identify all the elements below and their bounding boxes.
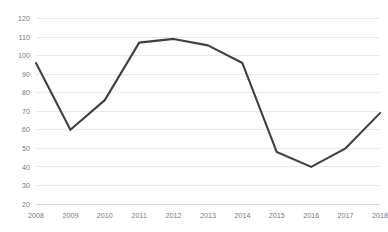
x-axis-tick-label: 2008	[28, 211, 44, 220]
y-axis-tick-label: 40	[22, 163, 30, 172]
y-axis-tick-label: 60	[22, 125, 30, 134]
line-chart: 1201101009080706050403020 20082009201020…	[0, 0, 388, 232]
x-axis-tick-label: 2012	[166, 211, 182, 220]
x-axis-tick-label: 2018	[372, 211, 388, 220]
x-axis-tick-label: 2013	[200, 211, 216, 220]
y-axis-tick-label: 20	[22, 200, 30, 209]
y-axis-tick-label: 120	[18, 14, 30, 23]
y-axis-tick-label: 100	[18, 51, 30, 60]
x-axis-tick-label: 2011	[131, 211, 146, 220]
x-axis-tick-label: 2017	[338, 211, 354, 220]
x-axis-tick-label: 2015	[269, 211, 285, 220]
y-axis-tick-label: 30	[22, 181, 30, 190]
x-axis-tick-label: 2014	[234, 211, 250, 220]
y-axis-tick-label: 70	[22, 107, 30, 116]
y-axis-tick-label: 80	[22, 88, 30, 97]
y-axis-tick-label: 110	[19, 33, 30, 42]
x-axis-tick-label: 2016	[303, 211, 319, 220]
chart-background	[0, 0, 388, 232]
y-axis-tick-label: 90	[22, 70, 30, 79]
chart-canvas: 1201101009080706050403020 20082009201020…	[0, 0, 388, 232]
x-axis-tick-label: 2010	[97, 211, 113, 220]
y-axis-tick-label: 50	[22, 144, 30, 153]
x-axis-tick-label: 2009	[62, 211, 78, 220]
